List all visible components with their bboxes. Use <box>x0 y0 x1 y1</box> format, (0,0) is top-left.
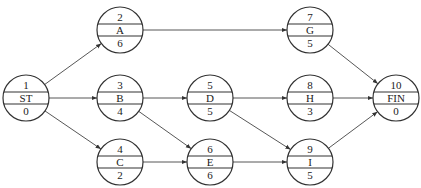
edge-b-to-e <box>139 111 192 148</box>
node-st: 1ST0 <box>3 75 49 121</box>
edge-d-to-i <box>229 110 290 149</box>
node-number: 10 <box>391 79 403 91</box>
network-diagram: 1ST02A63B44C25D56E67G58H39I510FIN0 <box>0 0 421 188</box>
node-label: D <box>206 92 214 104</box>
node-duration: 4 <box>117 105 123 117</box>
node-label: C <box>116 156 123 168</box>
node-c: 4C2 <box>97 139 143 185</box>
node-number: 1 <box>23 79 29 91</box>
node-number: 6 <box>207 143 213 155</box>
node-duration: 2 <box>117 169 123 181</box>
node-number: 2 <box>117 11 123 23</box>
node-label: A <box>116 24 124 36</box>
node-duration: 5 <box>207 105 213 117</box>
node-duration: 5 <box>307 37 313 49</box>
node-number: 3 <box>117 79 123 91</box>
node-fin: 10FIN0 <box>373 75 419 121</box>
node-e: 6E6 <box>187 139 233 185</box>
node-number: 4 <box>117 143 123 155</box>
node-h: 8H3 <box>287 75 333 121</box>
edge-st-to-c <box>45 111 101 149</box>
edge-st-to-a <box>45 43 102 84</box>
node-duration: 6 <box>117 37 123 49</box>
node-label: B <box>116 92 123 104</box>
node-label: E <box>207 156 214 168</box>
node-duration: 0 <box>393 105 399 117</box>
node-g: 7G5 <box>287 7 333 53</box>
node-number: 9 <box>307 143 313 155</box>
node-number: 7 <box>307 11 313 23</box>
node-duration: 6 <box>207 169 213 181</box>
node-number: 5 <box>207 79 213 91</box>
node-a: 2A6 <box>97 7 143 53</box>
node-b: 3B4 <box>97 75 143 121</box>
node-label: I <box>308 156 312 168</box>
node-duration: 0 <box>23 105 29 117</box>
node-duration: 3 <box>307 105 313 117</box>
node-label: G <box>306 24 314 36</box>
node-i: 9I5 <box>287 139 333 185</box>
node-duration: 5 <box>307 169 313 181</box>
node-number: 8 <box>307 79 313 91</box>
node-label: H <box>306 92 314 104</box>
node-label: ST <box>20 92 33 104</box>
edge-i-to-fin <box>328 112 377 149</box>
nodes-layer: 1ST02A63B44C25D56E67G58H39I510FIN0 <box>3 7 419 185</box>
node-d: 5D5 <box>187 75 233 121</box>
node-label: FIN <box>387 92 405 104</box>
edge-g-to-fin <box>328 44 378 83</box>
